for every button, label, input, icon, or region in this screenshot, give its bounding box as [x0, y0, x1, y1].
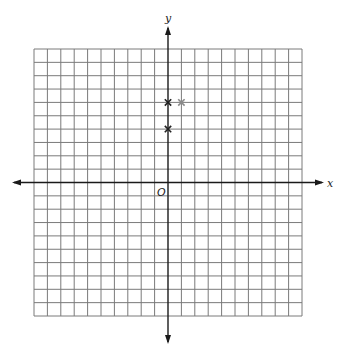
x-axis-arrow-right-icon [315, 180, 324, 186]
y-axis-arrow-down-icon [165, 335, 171, 344]
x-axis-arrow-left-icon [12, 180, 21, 186]
origin-label: O [157, 186, 166, 199]
x-axis-label: x [327, 177, 334, 190]
coordinate-plane: x y O [0, 0, 346, 355]
axes [12, 26, 324, 344]
y-axis-label: y [164, 12, 172, 25]
y-axis-arrow-up-icon [165, 26, 171, 35]
